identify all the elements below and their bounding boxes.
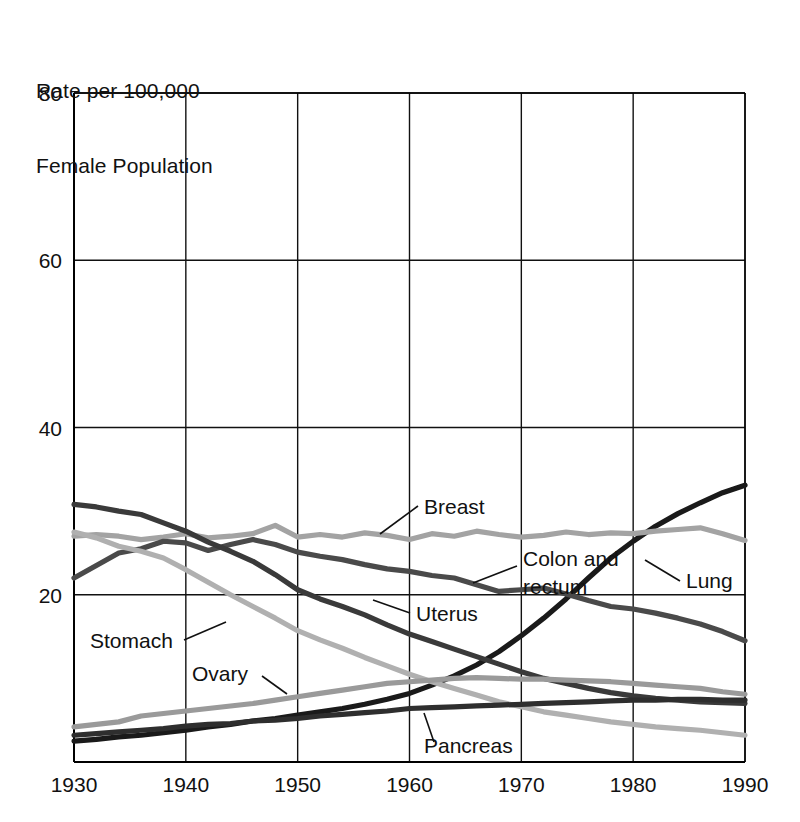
x-tick-label: 1990 <box>722 773 769 796</box>
x-axis-tick-labels: 1930194019501960197019801990 <box>51 773 769 796</box>
series-label-ovary: Ovary <box>192 662 249 685</box>
chart-container: Rate per 100,000 Female Population 80604… <box>0 0 800 822</box>
y-axis-title: Rate per 100,000 Female Population <box>36 28 213 228</box>
leader-line-lung <box>645 560 680 581</box>
x-tick-label: 1960 <box>386 773 433 796</box>
series-label-stomach: Stomach <box>90 629 173 652</box>
y-tick-label: 20 <box>39 584 62 607</box>
leader-line-ovary <box>262 676 287 694</box>
x-tick-label: 1930 <box>51 773 98 796</box>
x-tick-label: 1940 <box>162 773 209 796</box>
leader-line-uterus <box>373 600 410 613</box>
series-label-breast: Breast <box>424 495 485 518</box>
y-axis-title-line1: Rate per 100,000 <box>36 78 213 103</box>
y-tick-label: 60 <box>39 249 62 272</box>
series-label-pancreas: Pancreas <box>424 734 513 757</box>
x-tick-label: 1950 <box>274 773 321 796</box>
x-tick-label: 1980 <box>610 773 657 796</box>
x-tick-label: 1970 <box>498 773 545 796</box>
series-label-lung: Lung <box>686 569 733 592</box>
y-tick-label: 40 <box>39 417 62 440</box>
leader-line-stomach <box>184 622 226 640</box>
y-axis-title-line2: Female Population <box>36 153 213 178</box>
leader-line-breast <box>380 506 418 534</box>
leader-line-colon-and-rectum <box>473 566 517 583</box>
series-label-colon-and-rectum: rectum <box>523 575 587 598</box>
series-label-uterus: Uterus <box>416 602 478 625</box>
series-label-colon-and-rectum: Colon and <box>523 547 619 570</box>
